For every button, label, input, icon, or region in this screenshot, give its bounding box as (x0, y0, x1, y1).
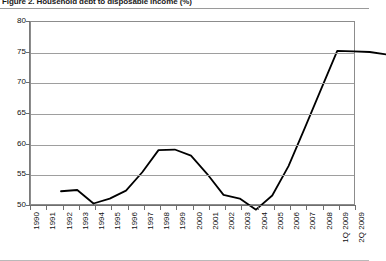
x-tick-mark-3 (79, 206, 80, 210)
y-tick-label-65: 65 (0, 109, 26, 117)
y-tick-label-70: 70 (0, 78, 26, 86)
plot-area (30, 21, 355, 205)
x-tick-mark-7 (144, 206, 145, 210)
x-tick-mark-11 (209, 206, 210, 210)
x-tick-label-1991: 1991 (49, 212, 57, 230)
gridline-75 (31, 53, 354, 54)
y-tick-mark-80 (26, 21, 30, 22)
x-tick-mark-5 (111, 206, 112, 210)
y-tick-label-75: 75 (0, 48, 26, 56)
y-tick-mark-75 (26, 52, 30, 53)
x-tick-label-2008: 2008 (326, 212, 334, 230)
x-tick-label-2003: 2003 (244, 212, 252, 230)
line-chart: 50556065707580 1990199119921993199419951… (0, 10, 369, 261)
x-tick-label-1994: 1994 (98, 212, 106, 230)
x-tick-mark-15 (274, 206, 275, 210)
x-tick-mark-6 (128, 206, 129, 210)
x-tick-label-2000: 2000 (196, 212, 204, 230)
figure-title: Figure 2. Household debt to disposable i… (2, 0, 192, 6)
x-tick-label-2007: 2007 (309, 212, 317, 230)
debt-to-income-series (61, 33, 386, 217)
x-tick-mark-1 (46, 206, 47, 210)
gridline-70 (31, 83, 354, 84)
x-tick-mark-14 (258, 206, 259, 210)
x-tick-label-2Q-2009: 2Q 2009 (358, 212, 366, 243)
x-tick-mark-0 (30, 206, 31, 210)
x-tick-mark-4 (95, 206, 96, 210)
x-tick-mark-18 (323, 206, 324, 210)
x-tick-label-2005: 2005 (277, 212, 285, 230)
x-tick-mark-16 (290, 206, 291, 210)
x-tick-mark-13 (241, 206, 242, 210)
x-tick-label-2002: 2002 (228, 212, 236, 230)
x-tick-mark-8 (160, 206, 161, 210)
x-tick-label-1992: 1992 (66, 212, 74, 230)
x-tick-label-1Q-2009: 1Q 2009 (342, 212, 350, 243)
x-tick-label-1999: 1999 (179, 212, 187, 230)
x-tick-label-1996: 1996 (131, 212, 139, 230)
x-tick-mark-12 (225, 206, 226, 210)
y-tick-mark-55 (26, 174, 30, 175)
x-tick-mark-20 (355, 206, 356, 210)
x-tick-mark-2 (63, 206, 64, 210)
y-tick-label-60: 60 (0, 140, 26, 148)
x-tick-label-1997: 1997 (147, 212, 155, 230)
y-tick-mark-65 (26, 113, 30, 114)
y-tick-label-80: 80 (0, 17, 26, 25)
y-tick-mark-70 (26, 82, 30, 83)
x-tick-mark-17 (306, 206, 307, 210)
x-tick-label-1998: 1998 (163, 212, 171, 230)
x-tick-label-2006: 2006 (293, 212, 301, 230)
y-tick-label-50: 50 (0, 201, 26, 209)
x-tick-mark-19 (339, 206, 340, 210)
x-tick-label-1993: 1993 (82, 212, 90, 230)
title-divider (0, 8, 369, 9)
x-tick-label-1995: 1995 (114, 212, 122, 230)
x-tick-label-2004: 2004 (261, 212, 269, 230)
y-tick-mark-60 (26, 144, 30, 145)
x-tick-mark-9 (176, 206, 177, 210)
x-tick-mark-10 (193, 206, 194, 210)
y-tick-label-55: 55 (0, 170, 26, 178)
x-tick-label-1990: 1990 (33, 212, 41, 230)
gridline-65 (31, 114, 354, 115)
x-tick-label-2001: 2001 (212, 212, 220, 230)
gridline-60 (31, 145, 354, 146)
gridline-55 (31, 175, 354, 176)
